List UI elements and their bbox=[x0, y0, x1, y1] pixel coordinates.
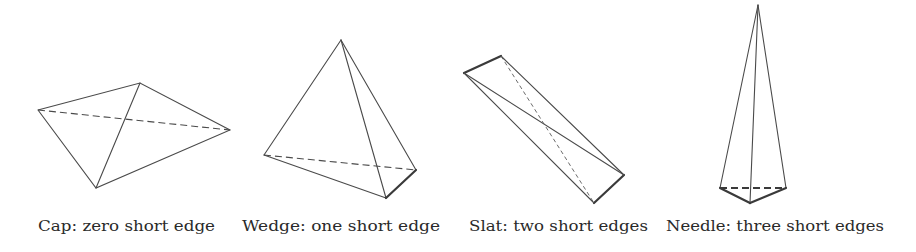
needle-short-edge-left bbox=[720, 188, 750, 203]
wedge-tetrahedron bbox=[264, 40, 416, 198]
wedge-label: Wedge: one short edge bbox=[242, 217, 440, 235]
slat-edge-left-long bbox=[464, 73, 594, 203]
needle-short-edge-right bbox=[750, 188, 786, 203]
cap-hidden-diagonal bbox=[38, 110, 230, 130]
needle-edge-apex-left bbox=[720, 5, 758, 188]
needle-label: Needle: three short edges bbox=[666, 217, 884, 235]
tetrahedra-figure: Cap: zero short edge Wedge: one short ed… bbox=[0, 0, 916, 252]
cap-tetrahedron bbox=[38, 83, 230, 188]
wedge-edge-apex-right bbox=[341, 40, 416, 170]
needle-edge-apex-bottom bbox=[750, 5, 758, 203]
slat-tetrahedron bbox=[464, 56, 624, 203]
slat-short-edge-bottom bbox=[594, 175, 624, 203]
cap-label: Cap: zero short edge bbox=[38, 217, 215, 235]
needle-tetrahedron bbox=[720, 5, 786, 203]
wedge-edge-apex-bottom bbox=[341, 40, 386, 198]
wedge-short-edge bbox=[386, 170, 416, 198]
slat-label: Slat: two short edges bbox=[469, 217, 648, 235]
needle-edge-apex-right bbox=[758, 5, 786, 188]
slat-short-edge-top bbox=[464, 56, 501, 73]
slat-hidden-diagonal bbox=[501, 56, 594, 203]
wedge-edge-apex-left bbox=[264, 40, 341, 155]
cap-outline bbox=[38, 83, 230, 188]
slat-edge-right-long bbox=[501, 56, 624, 175]
